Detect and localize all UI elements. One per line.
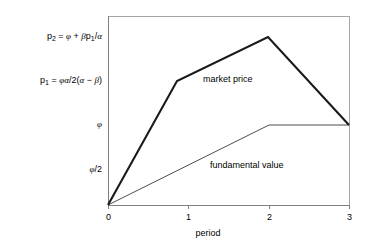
y-tick-label-phi-half: φ/2 [8, 164, 102, 174]
y-tick-p1-mid: /2( [69, 75, 80, 85]
series-label-market-price: market price [203, 74, 253, 84]
y-tick-label-phi: φ [8, 119, 102, 129]
y-tick-p2-p-sub: 1 [91, 35, 95, 42]
y-tick-p1-minus: − [84, 75, 94, 85]
x-axis-title: period [178, 228, 238, 238]
x-tick-label-2: 2 [259, 212, 280, 222]
y-tick-p2-sub: 2 [52, 35, 56, 42]
y-tick-phi-half-den: /2 [94, 164, 102, 174]
y-tick-p2-eq: = [56, 31, 66, 41]
chart-figure: p2 = φ + βp1/α p1 = φα/2(α − β) φ φ/2 0 … [0, 0, 379, 250]
y-tick-label-p1: p1 = φα/2(α − β) [8, 75, 102, 86]
y-tick-p1-sub: 1 [45, 79, 49, 86]
x-tick-label-1: 1 [178, 212, 199, 222]
series-market-price [108, 37, 349, 205]
y-tick-p1-eq: = [49, 75, 59, 85]
y-tick-p1-close: ) [99, 75, 102, 85]
y-tick-label-p2: p2 = φ + βp1/α [8, 31, 102, 42]
x-tick-label-3: 3 [339, 212, 360, 222]
y-tick-p2-plus: + [71, 31, 81, 41]
y-tick-p2-alpha: α [97, 31, 102, 41]
series-label-fundamental-value: fundamental value [210, 160, 284, 170]
x-tick-label-0: 0 [98, 212, 119, 222]
